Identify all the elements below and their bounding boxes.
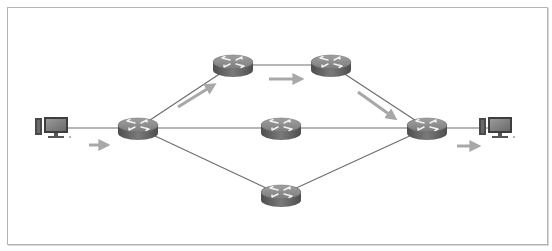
- router-icon: [311, 55, 351, 77]
- desktop-computer-icon: [479, 117, 515, 138]
- link-router-bottom-router-egress: [281, 128, 427, 195]
- link-router-ingress-router-bottom: [138, 128, 281, 195]
- flow-arrow-icon: [178, 86, 212, 107]
- router-icon: [407, 118, 447, 140]
- router-icon: [261, 185, 301, 207]
- router-icon: [213, 55, 253, 77]
- router-icon: [261, 118, 301, 140]
- router-icon: [118, 118, 158, 140]
- flow-arrow-icon: [358, 92, 393, 117]
- desktop-computer-icon: [35, 117, 71, 138]
- network-diagram: [0, 0, 552, 251]
